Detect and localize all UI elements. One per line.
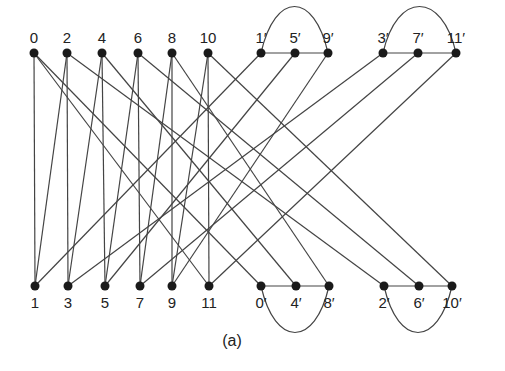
node-4p [292, 282, 301, 291]
node-label-4p: 4′ [290, 294, 301, 311]
node-6 [134, 49, 143, 58]
edge-6-7 [138, 53, 140, 286]
edge-10-11 [208, 53, 209, 286]
node-label-0: 0 [30, 29, 38, 46]
node-10p [448, 282, 457, 291]
node-8p [325, 282, 334, 291]
node-label-4: 4 [98, 29, 106, 46]
node-label-3p: 3′ [377, 29, 388, 46]
arc-layer [261, 7, 456, 333]
node-label-8: 8 [168, 29, 176, 46]
graph-diagram: 02468101′5′9′3′7′11′13579110′4′8′2′6′10′… [0, 0, 505, 371]
node-label-2: 2 [63, 29, 71, 46]
node-label-3: 3 [64, 294, 72, 311]
node-label-10: 10 [200, 29, 217, 46]
node-7p [414, 49, 423, 58]
edge-10-9 [172, 53, 208, 286]
node-label-5: 5 [101, 294, 109, 311]
node-label-7p: 7′ [412, 29, 423, 46]
node-label-11: 11 [201, 294, 217, 311]
node-layer [30, 49, 461, 291]
node-7 [136, 282, 145, 291]
node-5 [101, 282, 110, 291]
node-3p [379, 49, 388, 58]
edge-4-5 [102, 53, 105, 286]
node-label-6p: 6′ [413, 294, 424, 311]
node-0 [30, 49, 39, 58]
node-2 [63, 49, 72, 58]
node-label-1: 1 [31, 294, 39, 311]
node-label-0p: 0′ [255, 294, 266, 311]
node-11 [205, 282, 214, 291]
node-label-9p: 9′ [322, 29, 333, 46]
edge-10-10p [208, 53, 452, 286]
edge-11-11p [209, 53, 456, 286]
node-5p [291, 49, 300, 58]
node-8 [168, 49, 177, 58]
figure-caption: (a) [222, 332, 242, 349]
edge-layer [34, 53, 456, 286]
node-1 [31, 282, 40, 291]
node-label-10p: 10′ [442, 294, 462, 311]
node-2p [380, 282, 389, 291]
node-label-8p: 8′ [323, 294, 334, 311]
node-4 [98, 49, 107, 58]
node-label-7: 7 [136, 294, 144, 311]
node-9 [168, 282, 177, 291]
node-label-5p: 5′ [289, 29, 300, 46]
node-0p [257, 282, 266, 291]
edge-2-1 [35, 53, 67, 286]
node-10 [204, 49, 213, 58]
node-9p [324, 49, 333, 58]
node-label-2p: 2′ [378, 294, 389, 311]
edge-0-1 [34, 53, 35, 286]
node-label-9: 9 [168, 294, 176, 311]
node-3 [64, 282, 73, 291]
node-1p [257, 49, 266, 58]
node-11p [452, 49, 461, 58]
edge-4-3 [68, 53, 102, 286]
edge-8-7 [140, 53, 172, 286]
node-label-11p: 11′ [447, 29, 466, 46]
label-layer: 02468101′5′9′3′7′11′13579110′4′8′2′6′10′ [30, 29, 466, 311]
node-label-6: 6 [134, 29, 142, 46]
node-6p [415, 282, 424, 291]
node-label-1p: 1′ [255, 29, 266, 46]
